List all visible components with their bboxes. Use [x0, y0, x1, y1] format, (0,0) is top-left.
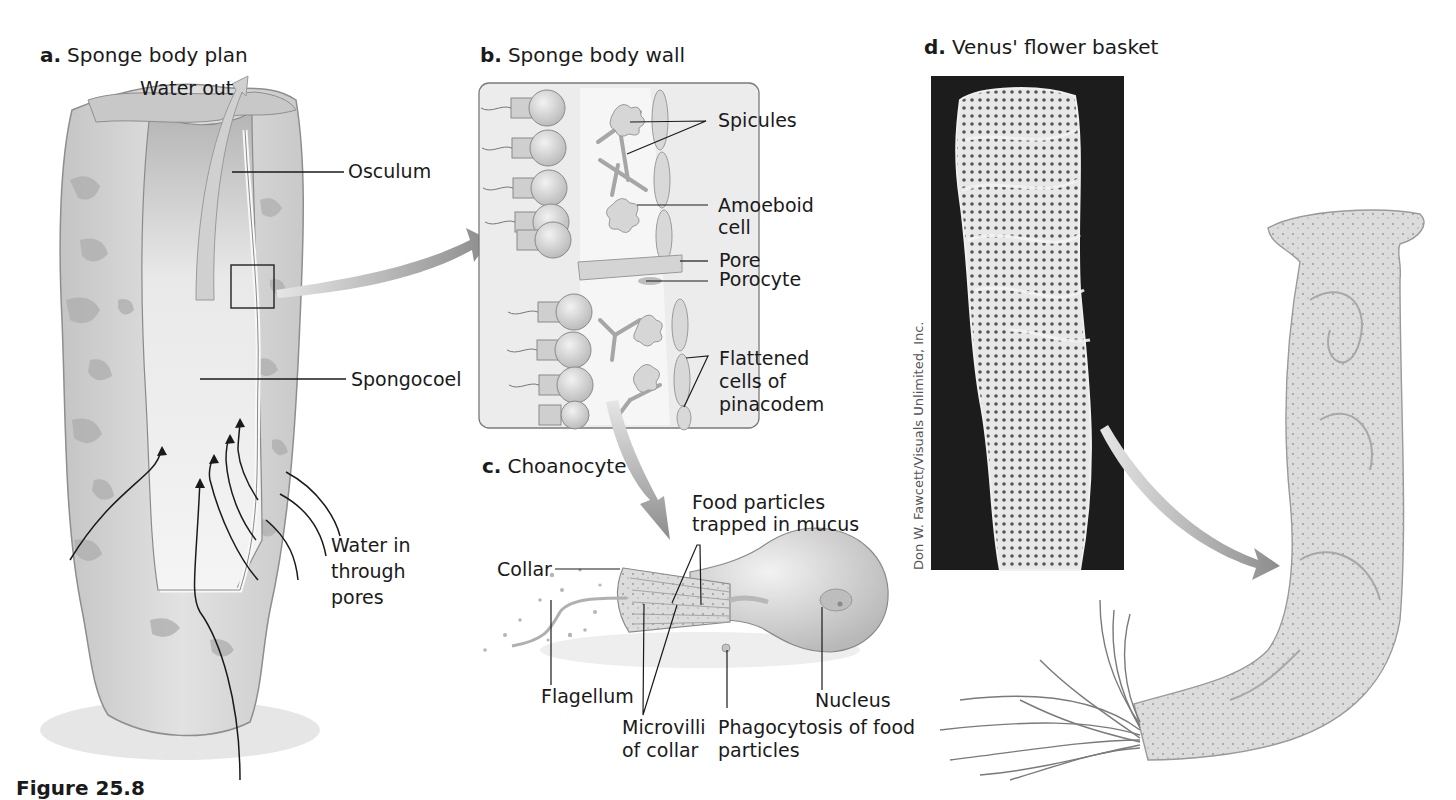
label-spicules: Spicules: [718, 110, 797, 131]
panel-d-letter: d.: [924, 35, 946, 59]
label-water-out: Water out: [140, 78, 233, 99]
label-food-particles-trapped-in-mucus: Food particles trapped in mucus: [692, 491, 859, 535]
label-water-in-through-pores: Water in through pores: [331, 532, 411, 610]
photo-credit: Don W. Fawcett/Visuals Unlimited, Inc.: [911, 322, 926, 571]
panel-c-letter: c.: [482, 454, 501, 478]
panel-b-title: b.Sponge body wall: [480, 44, 685, 66]
arrow-a-to-b: [276, 228, 490, 298]
panel-c-title-text: Choanocyte: [507, 454, 626, 478]
label-pore: Pore: [719, 251, 761, 269]
body-wall-illustration: [479, 83, 759, 430]
label-microvilli-of-collar: Microvilli of collar: [622, 716, 706, 762]
panel-b-letter: b.: [480, 43, 502, 67]
panel-d-title: d.Venus' flower basket: [924, 36, 1158, 58]
label-flattened-cells-of-pinacodem: Flattened cells of pinacodem: [719, 347, 824, 416]
panel-d-title-text: Venus' flower basket: [952, 35, 1159, 59]
panel-a-letter: a.: [40, 43, 61, 67]
label-nucleus: Nucleus: [815, 690, 891, 711]
panel-b-title-text: Sponge body wall: [508, 43, 685, 67]
label-collar: Collar: [497, 559, 552, 580]
panel-c-title: c.Choanocyte: [482, 455, 626, 477]
label-flagellum: Flagellum: [541, 686, 634, 707]
arrow-photo-to-drawing: [1100, 425, 1280, 580]
label-amoeboid-cell: Amoeboid cell: [718, 194, 814, 238]
panel-a-title-text: Sponge body plan: [67, 43, 248, 67]
sponge-body-illustration: [40, 76, 346, 780]
label-porocyte: Porocyte: [719, 270, 801, 288]
label-spongocoel: Spongocoel: [351, 369, 462, 390]
panel-a-title: a.Sponge body plan: [40, 44, 248, 66]
label-phagocytosis-of-food-particles: Phagocytosis of food particles: [718, 716, 915, 762]
figure-caption: Figure 25.8: [16, 776, 145, 800]
label-osculum: Osculum: [348, 161, 431, 182]
venus-flower-basket-photo: [931, 76, 1124, 570]
